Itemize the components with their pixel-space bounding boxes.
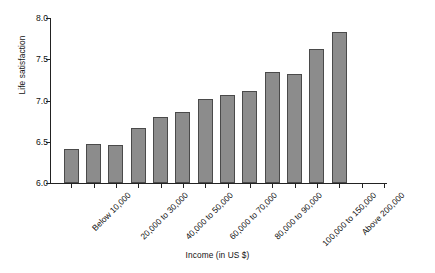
bar [86,144,101,183]
x-axis-tick-mark [295,184,296,188]
bar [108,145,123,183]
bar [265,72,280,183]
bar [153,117,168,183]
bar [309,49,324,183]
x-axis-tick-mark [250,184,251,188]
x-axis-tick-label: Below 10,000 [90,190,133,233]
x-axis-tick-mark [317,184,318,188]
y-axis-tick-mark [46,101,50,102]
x-axis-tick-mark [138,184,139,188]
bar [131,128,146,183]
x-axis-tick-mark [183,184,184,188]
x-axis-tick-mark [116,184,117,188]
x-axis-tick-mark [384,184,385,188]
x-axis-tick-label: 80,000 to 90,000 [272,190,324,242]
y-axis-tick-mark [46,183,50,184]
x-axis-line [50,183,387,184]
x-axis-tick-mark [339,184,340,188]
bar [287,74,302,183]
x-axis-tick-mark [272,184,273,188]
x-axis-tick-mark [94,184,95,188]
y-axis-tick-mark [46,59,50,60]
bar [198,99,213,183]
x-axis-title: Income (in US $) [0,250,435,260]
x-axis-tick-mark [161,184,162,188]
x-axis-tick-mark [71,184,72,188]
bar-chart-figure: Life satisfaction 6.06.57.07.58.0 Below … [0,0,435,273]
x-axis-tick-mark [205,184,206,188]
x-axis-tick-mark [362,184,363,188]
bar [242,91,257,183]
bar [332,32,347,183]
bar [64,149,79,183]
plot-area [50,18,385,183]
bar [220,95,235,183]
x-axis-tick-label: 20,000 to 30,000 [138,190,190,242]
y-axis-tick-labels: 6.06.57.07.58.0 [16,0,48,273]
x-axis-tick-mark [228,184,229,188]
y-axis-tick-mark [46,142,50,143]
bar [175,112,190,183]
y-axis-tick-mark [46,18,50,19]
